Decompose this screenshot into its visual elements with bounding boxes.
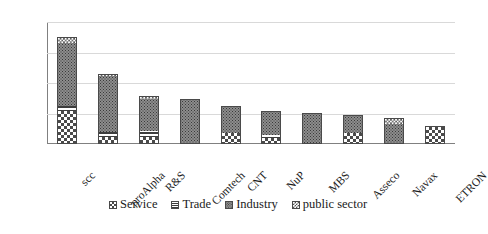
bar-group[interactable] bbox=[221, 106, 241, 144]
bar-group[interactable] bbox=[302, 113, 322, 144]
legend-label: public sector bbox=[303, 197, 367, 212]
legend-label: Trade bbox=[182, 197, 211, 212]
chart-legend: ServiceTradeIndustrypublic sector bbox=[0, 197, 476, 212]
bar-group[interactable] bbox=[343, 115, 363, 144]
bar-segment-industry[interactable] bbox=[302, 113, 322, 144]
x-tick-label: Navax bbox=[410, 169, 440, 199]
bar-segment-public-sector[interactable] bbox=[384, 118, 404, 125]
bar-segment-industry[interactable] bbox=[139, 99, 159, 131]
legend-item[interactable]: Trade bbox=[171, 197, 211, 212]
plot-area: 050100150200 sccproAlphaR&SComtechCNTNuP… bbox=[47, 22, 455, 144]
x-tick-label: R&S bbox=[163, 169, 188, 194]
legend-item[interactable]: public sector bbox=[292, 197, 367, 212]
bar-segment-service[interactable] bbox=[98, 137, 118, 144]
bar-segment-service[interactable] bbox=[139, 137, 159, 144]
bar-segment-industry[interactable] bbox=[261, 111, 281, 135]
bar-group[interactable] bbox=[384, 118, 404, 144]
bar-group[interactable] bbox=[98, 74, 118, 144]
bar-segment-industry[interactable] bbox=[57, 43, 77, 106]
bar-segment-industry[interactable] bbox=[384, 124, 404, 144]
x-tick-label: NuP bbox=[284, 169, 307, 192]
checkerboard-large-icon bbox=[109, 201, 117, 209]
bar-segment-service[interactable] bbox=[221, 133, 241, 144]
legend-label: Industry bbox=[236, 197, 278, 212]
bar-group[interactable] bbox=[180, 99, 200, 144]
gray-dotted-icon bbox=[225, 201, 233, 209]
bar-segment-service[interactable] bbox=[343, 133, 363, 144]
bar-segment-industry[interactable] bbox=[180, 99, 200, 144]
bar-group[interactable] bbox=[57, 37, 77, 144]
bar-segment-industry[interactable] bbox=[343, 115, 363, 133]
bar-group[interactable] bbox=[261, 111, 281, 144]
horizontal-stripes-icon bbox=[171, 201, 179, 209]
bar-group[interactable] bbox=[425, 126, 445, 144]
bar-segment-industry[interactable] bbox=[221, 106, 241, 133]
x-tick-label: CNT bbox=[244, 169, 269, 194]
bar-segment-service[interactable] bbox=[57, 111, 77, 144]
bar-segment-service[interactable] bbox=[261, 138, 281, 144]
bar-group[interactable] bbox=[139, 96, 159, 144]
legend-label: Service bbox=[120, 197, 157, 212]
legend-item[interactable]: Service bbox=[109, 197, 157, 212]
checkerboard-small-icon bbox=[292, 201, 300, 209]
bar-series-container bbox=[47, 22, 455, 144]
x-tick-label: MBS bbox=[326, 169, 352, 195]
bar-segment-service[interactable] bbox=[425, 126, 445, 144]
legend-item[interactable]: Industry bbox=[225, 197, 278, 212]
x-tick-label: scc bbox=[79, 169, 98, 188]
bar-segment-industry[interactable] bbox=[98, 76, 118, 132]
